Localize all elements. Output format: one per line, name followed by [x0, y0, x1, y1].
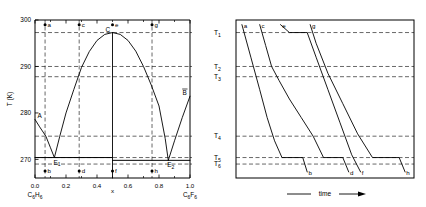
- curve-liquidus-compound-right: [113, 33, 169, 161]
- curve-liquidus-compound-left: [54, 33, 112, 158]
- point-label-h: h: [155, 167, 159, 174]
- point-label-f: f: [115, 167, 117, 174]
- point-c: [78, 23, 81, 26]
- time-axis-arrow-icon: [358, 191, 366, 196]
- xtick-label-0: 0.0: [31, 182, 40, 189]
- point-label-a: a: [48, 21, 52, 28]
- x-axis-left-component: C6H6: [28, 191, 43, 200]
- cooling-curve-ab: [242, 25, 307, 172]
- point-e: [111, 23, 114, 26]
- xtick-label-0.4: 0.4: [93, 182, 102, 189]
- figure-root: T1T2T3T4T5T62702802903000.20.40.60.80.01…: [0, 0, 426, 207]
- x-axis-right-component: C6F6: [183, 191, 197, 200]
- label-congruent-C: C: [106, 26, 111, 33]
- cooling-start-label-g: g: [312, 22, 316, 29]
- point-label-e: e: [115, 21, 119, 28]
- point-label-b: b: [48, 167, 52, 174]
- cooling-end-label-h: h: [406, 169, 410, 176]
- label-T1: T1: [214, 29, 221, 38]
- point-a: [44, 23, 47, 26]
- cooling-curve-cd: [260, 25, 349, 172]
- label-eutectic-E1: E1: [53, 159, 60, 168]
- label-T4: T4: [214, 132, 221, 141]
- time-axis-label: time: [319, 190, 332, 197]
- cooling-end-label-d: d: [350, 169, 354, 176]
- cooling-curve-gh: [310, 25, 405, 172]
- point-d: [78, 170, 81, 173]
- curve-liquidus-left-branch: [35, 119, 54, 157]
- right-panel-frame: [236, 20, 414, 178]
- point-b: [44, 170, 47, 173]
- cooling-start-label-c: c: [262, 22, 265, 29]
- xtick-label-0.6: 0.6: [124, 182, 133, 189]
- point-f: [111, 170, 114, 173]
- cooling-start-label-a: a: [244, 22, 248, 29]
- label-T3: T3: [214, 73, 221, 82]
- ytick-label-290: 290: [20, 63, 31, 70]
- point-h: [151, 170, 154, 173]
- label-pure-B: B: [183, 89, 187, 96]
- phase-diagram-figure: T1T2T3T4T5T62702802903000.20.40.60.80.01…: [0, 0, 426, 207]
- label-pure-A: A: [38, 112, 43, 119]
- x-axis-label: x: [111, 187, 115, 194]
- label-eutectic-E2: E2: [167, 161, 174, 170]
- curve-liquidus-right-branch: [168, 96, 190, 160]
- point-label-c: c: [82, 21, 85, 28]
- point-label-d: d: [82, 167, 86, 174]
- cooling-end-label-f: f: [362, 169, 364, 176]
- ytick-label-280: 280: [20, 109, 31, 116]
- point-g: [151, 23, 154, 26]
- cooling-end-label-b: b: [308, 169, 312, 176]
- point-label-g: g: [155, 21, 159, 28]
- xtick-label-0.2: 0.2: [62, 182, 71, 189]
- y-axis-label: T (K): [6, 92, 14, 107]
- xtick-label-0.8: 0.8: [155, 182, 164, 189]
- ytick-label-270: 270: [20, 156, 31, 163]
- cooling-start-label-e: e: [282, 22, 286, 29]
- ytick-label-300: 300: [20, 16, 31, 23]
- label-T2: T2: [214, 63, 221, 72]
- cooling-curve-ef: [281, 25, 361, 172]
- xtick-label-1: 1.0: [186, 182, 195, 189]
